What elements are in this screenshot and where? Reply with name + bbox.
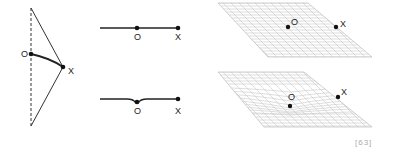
flat-grid-panel: O X	[170, 0, 394, 70]
curved-arc	[31, 54, 63, 67]
label-x: X	[68, 66, 74, 76]
point-x	[61, 65, 66, 70]
label-o: O	[21, 49, 28, 59]
label-x: X	[175, 32, 181, 42]
point-o	[135, 26, 140, 31]
pendulum-panel: O X	[21, 8, 74, 126]
diagram-canvas: O X O X O X	[0, 0, 395, 153]
label-o: O	[288, 92, 295, 102]
lower-edge	[31, 67, 63, 126]
point-x	[176, 97, 181, 102]
point-x	[334, 25, 338, 29]
point-o	[135, 100, 140, 105]
point-o	[286, 25, 290, 29]
label-o: O	[134, 32, 141, 42]
point-o	[288, 104, 292, 108]
point-x	[336, 95, 340, 99]
label-x: X	[340, 19, 346, 29]
point-x	[176, 26, 181, 31]
flat-line-panel: O X	[100, 26, 181, 42]
figure-reference: [63]	[355, 138, 372, 147]
label-o: O	[291, 17, 298, 27]
dipped-line-panel: O X	[100, 97, 181, 116]
label-o: O	[134, 106, 141, 116]
label-x: X	[341, 87, 347, 97]
point-o	[29, 52, 34, 57]
curved-grid-panel: O X	[170, 59, 394, 139]
label-x: X	[175, 106, 181, 116]
